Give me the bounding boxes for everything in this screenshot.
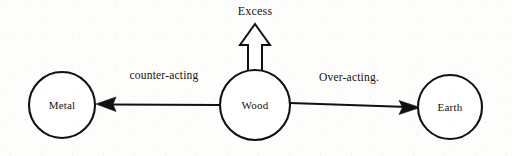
edge-label-over-acting: Over-acting. xyxy=(319,71,379,83)
connector-wood-to-earth xyxy=(290,103,408,107)
arrowhead-metal xyxy=(96,97,116,112)
five-element-diagram: Metal Wood Earth counter-acting Over-act… xyxy=(0,0,512,156)
diagram-canvas xyxy=(0,0,512,156)
excess-label: Excess xyxy=(238,4,273,19)
node-label-metal: Metal xyxy=(49,99,76,111)
excess-arrow-icon xyxy=(240,24,270,74)
connector-wood-to-metal xyxy=(108,105,220,106)
arrowhead-earth xyxy=(399,101,420,115)
edge-label-counter-acting: counter-acting xyxy=(130,69,199,81)
node-label-earth: Earth xyxy=(438,101,463,113)
node-label-wood: Wood xyxy=(242,99,269,111)
